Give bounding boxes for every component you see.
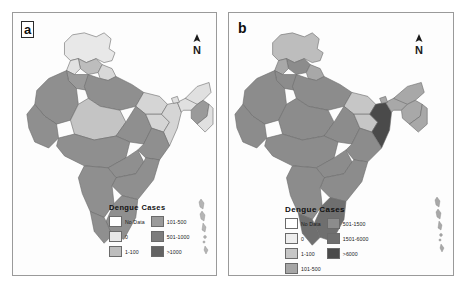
legend-item: 101-500 <box>285 263 321 274</box>
legend-item: 1-100 <box>109 246 145 257</box>
legend-b-column-right: 501-1500 1501-6000 >6000 <box>327 218 369 274</box>
svg-text:N: N <box>193 44 201 56</box>
legend-item: 1501-6000 <box>327 233 369 244</box>
legend-item: 501-1500 <box>327 218 369 229</box>
legend-swatch <box>151 246 164 257</box>
panel-b: b <box>228 12 454 276</box>
legend-item: 0 <box>109 231 145 242</box>
legend-a: Dengue Cases No Data 0 1-100 <box>109 203 213 257</box>
legend-swatch <box>327 233 340 244</box>
legend-swatch <box>285 263 298 274</box>
legend-item-label: 1-100 <box>301 251 315 257</box>
legend-item-label: >1000 <box>167 249 182 255</box>
legend-item: No Data <box>285 218 321 229</box>
legend-b: Dengue Cases No Data 0 1-100 <box>285 205 413 274</box>
legend-swatch <box>327 248 340 259</box>
legend-item: 501-1000 <box>151 231 190 242</box>
legend-swatch <box>109 246 122 257</box>
legend-swatch <box>327 218 340 229</box>
dengue-map-figure: a <box>0 0 466 290</box>
legend-swatch <box>109 216 122 227</box>
legend-a-column-right: 101-500 501-1000 >1000 <box>151 216 190 257</box>
legend-item-label: No Data <box>301 221 321 227</box>
legend-item: No Data <box>109 216 145 227</box>
legend-item-label: 101-500 <box>167 219 187 225</box>
legend-item-label: 0 <box>301 236 304 242</box>
legend-item: 101-500 <box>151 216 190 227</box>
legend-item-label: 0 <box>125 234 128 240</box>
north-arrow-a: N <box>189 33 205 59</box>
legend-item-label: 101-500 <box>301 266 321 272</box>
andaman-nicobar-islands-b <box>427 193 453 255</box>
legend-item-label: 501-1000 <box>167 234 190 240</box>
svg-text:N: N <box>415 44 423 56</box>
legend-swatch <box>151 231 164 242</box>
legend-item: 0 <box>285 233 321 244</box>
legend-a-title: Dengue Cases <box>109 203 213 212</box>
legend-b-title: Dengue Cases <box>285 205 413 214</box>
panel-a: a <box>12 12 217 276</box>
legend-swatch <box>109 231 122 242</box>
legend-item-label: No Data <box>125 219 145 225</box>
legend-item-label: 1501-6000 <box>343 236 369 242</box>
legend-item: >1000 <box>151 246 190 257</box>
legend-b-column-left: No Data 0 1-100 101-500 <box>285 218 321 274</box>
north-arrow-b: N <box>411 33 427 59</box>
legend-item: 1-100 <box>285 248 321 259</box>
legend-item-label: 1-100 <box>125 249 139 255</box>
legend-swatch <box>285 233 298 244</box>
legend-item-label: 501-1500 <box>343 221 366 227</box>
legend-swatch <box>285 218 298 229</box>
legend-swatch <box>285 248 298 259</box>
legend-item: >6000 <box>327 248 369 259</box>
legend-a-column-left: No Data 0 1-100 <box>109 216 145 257</box>
legend-swatch <box>151 216 164 227</box>
legend-item-label: >6000 <box>343 251 358 257</box>
